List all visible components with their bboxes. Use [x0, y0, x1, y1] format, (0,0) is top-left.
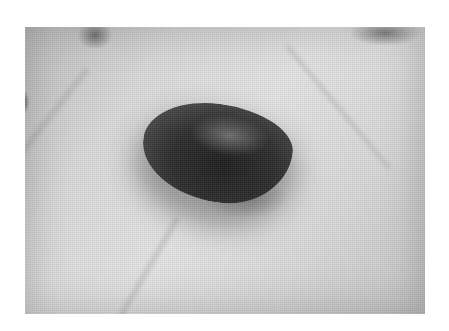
vignette — [25, 27, 425, 314]
pebble-on-palm-photo — [25, 27, 425, 314]
